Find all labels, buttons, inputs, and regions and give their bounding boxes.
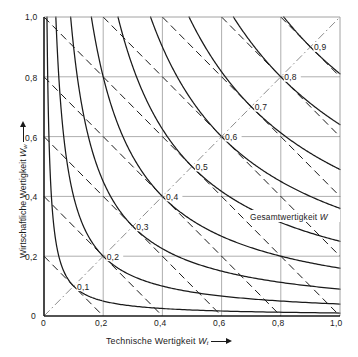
contour-label-0-7: 0,7	[255, 102, 267, 112]
y-axis-label-subscript: w	[22, 144, 28, 148]
xtick-label-0: 0	[41, 318, 46, 328]
xtick-label-1: 0,2	[95, 318, 107, 328]
xtick-label-3: 0,6	[213, 318, 225, 328]
y-axis-label-symbol: W	[18, 149, 28, 157]
contour-label-0-4: 0,4	[166, 192, 178, 202]
ytick-label-5: 1,0	[25, 12, 37, 22]
ytick-label-4: 0,8	[25, 73, 37, 83]
contour-label-0-1: 0,1	[77, 282, 89, 292]
contour-label-0-8: 0,8	[284, 72, 296, 82]
contour-label-0-2: 0,2	[107, 252, 119, 262]
contour-label-0-3: 0,3	[136, 222, 148, 232]
contour-label-0-9: 0,9	[314, 42, 326, 52]
chart-annotation-text: Gesamtwertigkeit	[250, 212, 317, 222]
up-arrow-icon	[20, 120, 27, 142]
contour-label-0-5: 0,5	[196, 162, 208, 172]
contour-label-0-6: 0,6	[225, 132, 237, 142]
x-axis-label-text: Technische Wertigkeit	[106, 336, 196, 346]
chart-figure: 0 0,2 0,4 0,6 0,8 1,0 0 0,2 0,4 0,6 0,8 …	[0, 0, 358, 357]
y-axis-label: Wirtschaftliche Wertigkeit Ww	[18, 120, 28, 258]
y-axis-label-text: Wirtschaftliche Wertigkeit	[18, 159, 28, 258]
ytick-label-0: 0	[31, 311, 36, 321]
xtick-label-5: 1,0	[330, 318, 342, 328]
xtick-label-2: 0,4	[154, 318, 166, 328]
x-axis-label-symbol: W	[198, 336, 207, 346]
chart-annotation-symbol: W	[320, 212, 328, 222]
xtick-label-4: 0,8	[272, 318, 284, 328]
chart-canvas	[0, 0, 358, 357]
x-axis-label: Technische Wertigkeit Wt	[106, 336, 233, 346]
chart-annotation: Gesamtwertigkeit W	[250, 212, 328, 222]
right-arrow-icon	[211, 338, 233, 345]
